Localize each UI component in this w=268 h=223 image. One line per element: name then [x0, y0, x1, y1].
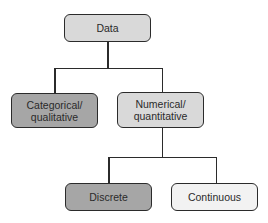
node-discrete: Discrete — [65, 183, 152, 211]
connector-root-down — [107, 42, 109, 68]
node-numerical-line2: quantitative — [134, 110, 188, 122]
node-numerical: Numerical/ quantitative — [117, 92, 204, 128]
node-data-label: Data — [96, 22, 118, 34]
node-categorical: Categorical/ qualitative — [11, 93, 98, 128]
connector-to-discrete — [108, 157, 110, 183]
node-continuous: Continuous — [171, 183, 258, 211]
connector-numerical-down — [162, 128, 164, 157]
node-continuous-label: Continuous — [188, 191, 241, 203]
connector-to-numerical — [162, 68, 164, 92]
node-discrete-label: Discrete — [89, 191, 128, 203]
node-categorical-line1: Categorical/ — [26, 99, 82, 111]
node-categorical-line2: qualitative — [31, 111, 78, 123]
connector-to-categorical — [54, 68, 56, 93]
connector-level2-horizontal — [108, 157, 217, 159]
connector-level1-horizontal — [54, 68, 163, 70]
node-data: Data — [64, 14, 151, 42]
connector-to-continuous — [216, 157, 218, 183]
node-numerical-line1: Numerical/ — [135, 98, 185, 110]
